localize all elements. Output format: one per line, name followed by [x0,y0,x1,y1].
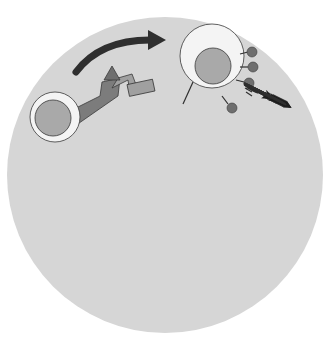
outer-circle [7,17,323,333]
immune-response-diagram [0,0,325,342]
